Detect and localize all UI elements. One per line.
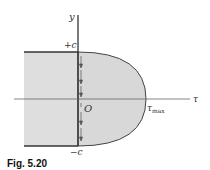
figure-caption: Fig. 5.20 <box>7 158 47 169</box>
shear-stress-diagram: y +c O τmax τ −c Fig. 5.20 <box>0 0 210 170</box>
tau-max-label: τmax <box>147 103 165 114</box>
bottom-label: −c <box>70 147 83 157</box>
y-axis-label: y <box>68 11 75 22</box>
origin-label: O <box>84 103 92 114</box>
top-label: +c <box>64 40 77 50</box>
tau-axis-label: τ <box>193 94 199 104</box>
